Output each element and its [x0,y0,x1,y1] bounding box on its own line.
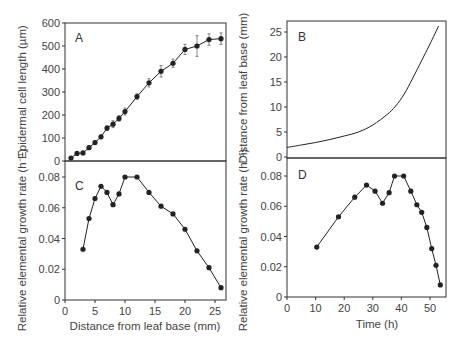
y-tick-label: 0 [54,294,60,306]
panel-a-ylabel: Epidermal cell length (µm) [16,25,28,159]
x-tick-label: 20 [179,305,191,317]
x-tick-label: 40 [395,302,407,314]
data-point [352,195,357,200]
panel-b-y-ticks: 0510152025 [270,26,287,163]
y-tick-label: 0.02 [261,261,282,273]
data-point [218,36,223,41]
x-tick-label: 0 [284,302,290,314]
panel-a: 0100200300400500600 A Epidermal cell len… [16,17,226,167]
panel-b-label: B [298,30,306,44]
y-tick-label: 500 [42,40,60,52]
data-point [206,265,211,270]
y-tick-label: 0.04 [261,231,282,243]
data-point [110,202,115,207]
y-tick-label: 400 [42,63,60,75]
data-point [387,190,392,195]
data-point [104,126,109,131]
panel-b-curve [287,26,439,148]
data-point [170,61,175,66]
data-point [116,116,121,121]
y-tick-label: 600 [42,17,60,29]
data-point [218,285,223,290]
data-point [429,246,434,251]
data-point [68,155,73,160]
panel-a-series [68,33,223,161]
data-point [314,244,319,249]
data-point [80,150,85,155]
data-point [110,122,115,127]
x-tick-label: 30 [367,302,379,314]
data-point [98,184,103,189]
data-point [134,174,139,179]
y-tick-label: 0.02 [39,263,60,275]
y-tick-label: 5 [276,126,282,138]
panel-d-series [314,173,443,287]
x-tick-label: 25 [209,305,221,317]
x-tick-label: 50 [424,302,436,314]
data-point [419,210,424,215]
y-tick-label: 15 [270,76,282,88]
data-point [92,196,97,201]
data-point [104,190,109,195]
data-point [122,174,127,179]
y-tick-label: 300 [42,86,60,98]
panel-a-y-ticks: 0100200300400500600 [42,17,65,167]
panel-c-ylabel: Relative elemental growth rate (h⁻¹) [16,149,28,332]
data-point [433,263,438,268]
data-point [92,140,97,145]
y-tick-label: 0 [276,151,282,163]
data-point [438,282,443,287]
y-tick-label: 0.06 [261,200,282,212]
data-point [372,189,377,194]
y-tick-label: 0.08 [261,170,282,182]
panel-a-label: A [75,31,83,45]
data-point [158,204,163,209]
x-tick-label: 15 [149,305,161,317]
y-tick-label: 200 [42,109,60,121]
data-point [158,69,163,74]
data-point [414,202,419,207]
data-point [86,216,91,221]
panel-d-label: D [298,168,307,182]
data-point [194,248,199,253]
x-tick-label: 0 [62,305,68,317]
panel-b-series [287,26,439,148]
data-point [146,80,151,85]
data-point [401,173,406,178]
y-tick-label: 0.06 [39,202,60,214]
data-point [194,43,199,48]
panel-d-xlabel: Time (h) [356,318,399,330]
x-tick-label: 5 [92,305,98,317]
data-point [182,227,187,232]
data-point [170,211,175,216]
y-tick-label: 0 [54,155,60,167]
data-point [206,37,211,42]
panel-c-xlabel: Distance from leaf base (mm) [70,320,221,332]
y-tick-label: 20 [270,51,282,63]
data-point [424,225,429,230]
data-point [182,47,187,52]
y-tick-label: 100 [42,132,60,144]
panel-c-label: C [75,179,84,193]
y-tick-label: 0.04 [39,233,60,245]
panel-b-ylabel: Distance from leaf base (mm) [237,12,249,163]
panel-b: 0510152025 B Distance from leaf base (mm… [237,12,446,163]
x-tick-label: 10 [309,302,321,314]
x-tick-label: 10 [119,305,131,317]
y-tick-label: 0 [276,291,282,303]
data-point [134,94,139,99]
data-point [116,191,121,196]
y-tick-label: 10 [270,101,282,113]
figure: 0100200300400500600 A Epidermal cell len… [0,0,465,350]
panel-c-series [80,174,223,290]
data-point [80,247,85,252]
data-point [122,109,127,114]
x-tick-label: 20 [338,302,350,314]
data-point [336,214,341,219]
y-tick-label: 0.08 [39,171,60,183]
data-point [392,173,397,178]
data-point [408,189,413,194]
data-point [146,190,151,195]
panel-d: 00.020.040.060.0801020304050 D Relative … [237,149,446,332]
panel-c: 00.020.040.060.080510152025 C Relative e… [16,149,226,332]
